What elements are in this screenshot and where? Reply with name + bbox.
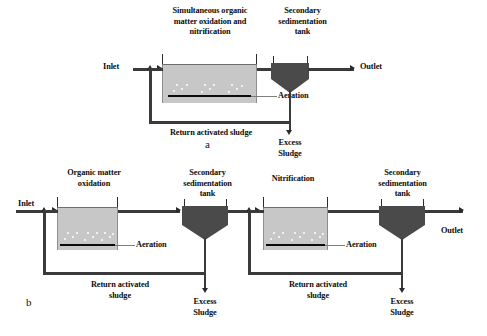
diagram-b-stage1-tank-top-edge: [57, 207, 118, 208]
diagram-b-outlet-pipe: [425, 210, 463, 213]
diagram-b-stage2-excess-sludge-label: Excess Sludge: [380, 297, 424, 318]
diagram-a-outlet-arrow-icon: [350, 65, 355, 71]
diagram-b-outlet-label: Outlet: [441, 226, 485, 237]
diagram-b-stage1-ras-to-tank-pipe: [43, 210, 58, 213]
diagram-b-stage2-aeration-diffuser: [266, 244, 325, 246]
diagram-a-secondary-clarifier: [271, 63, 309, 93]
diagram-b-stage1-excess-sludge-label: Excess Sludge: [183, 297, 227, 318]
diagram-a-tank-top-edge: [162, 64, 257, 65]
diagram-b-stage2-aeration-label: Aeration: [346, 240, 396, 251]
diagram-b-outlet-arrow-icon: [459, 207, 464, 213]
diagram-b-stage2-aeration-leader: [325, 245, 345, 246]
diagram-a-ras-to-tank-pipe: [149, 68, 163, 71]
diagram-a-ras-pipe-horizontal: [149, 121, 290, 124]
diagram-b-stage1-aeration-label: Aeration: [136, 240, 186, 251]
diagram-a-outlet-pipe: [308, 68, 354, 71]
diagram-b-stage1-ras-pipe-vertical: [43, 210, 46, 273]
diagram-b-caption: b: [26, 296, 32, 308]
diagram-b-stage2-mixed-liquor-pipe: [328, 210, 381, 213]
diagram-b-stage1-excess-sludge-arrow-icon: [202, 288, 208, 293]
diagram-b-stage2-ras-pipe-horizontal: [248, 272, 402, 275]
diagram-b-stage1-secondary-clarifier: [182, 206, 228, 240]
diagram-b-stage2-reactor-title: Nitrification: [252, 174, 334, 185]
diagram-a-excess-sludge-label: Excess Sludge: [268, 138, 312, 159]
diagram-a-caption: a: [205, 138, 210, 150]
diagram-a-excess-sludge-arrow-icon: [286, 130, 292, 135]
diagram-b-stage2-ras-to-tank-pipe: [248, 210, 264, 213]
diagram-b-stage1-reactor-title: Organic matter oxidation: [45, 168, 143, 189]
diagram-b-stage1-tank-left-tick: [57, 197, 58, 207]
diagram-a-tank-left-tick: [162, 54, 163, 64]
process-flow-diagram: Simultaneous organic matter oxidation an…: [0, 0, 487, 336]
diagram-a-return-sludge-label: Return activated sludge: [152, 128, 270, 139]
diagram-a-ras-pipe-vertical: [149, 68, 152, 122]
diagram-a-outlet-label: Outlet: [360, 62, 404, 73]
diagram-b-stage1-mixed-liquor-pipe: [118, 210, 180, 213]
diagram-b-stage1-ras-pipe-horizontal: [43, 272, 205, 275]
diagram-b-stage1-aeration-diffuser: [60, 244, 115, 246]
diagram-b-stage2-return-sludge-label: Return activated sludge: [268, 280, 368, 301]
diagram-b-stage1-aeration-leader: [115, 245, 135, 246]
diagram-b-stage1-tank-right-tick: [117, 197, 118, 207]
diagram-b-stage2-sludge-drawoff-pipe: [401, 238, 404, 290]
diagram-a-aeration-leader: [251, 96, 277, 97]
diagram-b-stage2-tank-left-tick: [263, 197, 264, 207]
diagram-a-clarifier-title: Secondary sedimentation tank: [255, 6, 350, 38]
diagram-b-stage2-clarifier-title: Secondary sedimentation tank: [355, 168, 450, 200]
diagram-a-aeration-diffuser: [168, 95, 251, 97]
diagram-b-stage2-secondary-clarifier: [379, 206, 425, 240]
diagram-b-stage1-sludge-drawoff-pipe: [204, 238, 207, 290]
diagram-b-stage2-ras-pipe-vertical: [248, 210, 251, 273]
diagram-a-reactor-title: Simultaneous organic matter oxidation an…: [150, 6, 270, 38]
diagram-b-stage1-mixed-liquor-arrow-icon: [176, 207, 181, 213]
diagram-b-stage1-clarifier-title: Secondary sedimentation tank: [160, 168, 255, 200]
diagram-b-stage2-excess-sludge-arrow-icon: [399, 288, 405, 293]
diagram-b-stage1-return-sludge-label: Return activated sludge: [70, 280, 170, 301]
diagram-a-sludge-drawoff-pipe: [289, 90, 292, 132]
diagram-b-stage2-tank-right-tick: [327, 197, 328, 207]
diagram-a-tank-right-tick: [256, 54, 257, 64]
diagram-b-stage2-tank-top-edge: [263, 207, 328, 208]
